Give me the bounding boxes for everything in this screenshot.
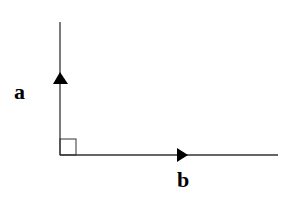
arrow-right-icon: [177, 148, 188, 162]
label-b: b: [177, 167, 189, 192]
right-angle-marker: [60, 139, 76, 155]
diagram-svg: a b: [0, 0, 293, 207]
arrow-up-icon: [53, 72, 68, 84]
diagram-canvas: a b: [0, 0, 293, 207]
label-a: a: [14, 79, 25, 104]
